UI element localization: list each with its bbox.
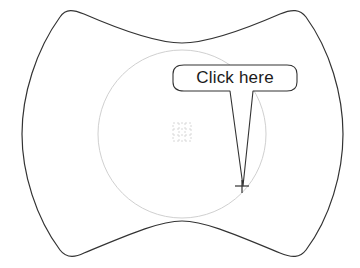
- callout-bubble: [173, 65, 297, 186]
- crosshair-icon: [235, 180, 249, 193]
- dotted-grid-icon: [173, 123, 191, 141]
- canvas: Click here: [0, 0, 360, 268]
- outer-shape-outline: [22, 11, 343, 257]
